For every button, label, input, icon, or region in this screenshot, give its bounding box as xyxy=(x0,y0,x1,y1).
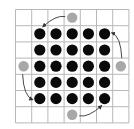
black-piece xyxy=(67,77,78,88)
black-piece xyxy=(34,93,45,104)
black-piece xyxy=(50,44,61,55)
pieces-layer xyxy=(18,12,126,120)
black-piece xyxy=(83,93,94,104)
black-piece xyxy=(50,28,61,39)
gray-piece xyxy=(67,110,77,120)
black-piece xyxy=(67,61,78,72)
black-piece xyxy=(34,77,45,88)
black-piece xyxy=(34,44,45,55)
gray-piece xyxy=(18,61,28,71)
black-piece xyxy=(67,28,78,39)
black-piece xyxy=(99,44,110,55)
black-piece xyxy=(99,77,110,88)
gray-piece xyxy=(67,12,77,22)
black-piece xyxy=(67,44,78,55)
black-piece xyxy=(83,61,94,72)
gray-piece xyxy=(116,61,126,71)
black-piece xyxy=(99,93,110,104)
black-piece xyxy=(67,93,78,104)
black-piece xyxy=(50,61,61,72)
black-piece xyxy=(34,61,45,72)
black-piece xyxy=(83,44,94,55)
black-piece xyxy=(99,28,110,39)
black-piece xyxy=(83,77,94,88)
black-piece xyxy=(99,61,110,72)
black-piece xyxy=(34,28,45,39)
grid-board-diagram xyxy=(0,0,134,129)
black-piece xyxy=(83,28,94,39)
black-piece xyxy=(50,77,61,88)
black-piece xyxy=(50,93,61,104)
